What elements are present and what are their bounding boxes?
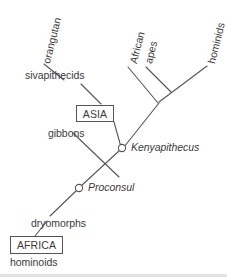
branch-sivapithecids-to-asia (81, 84, 101, 104)
node-marker-kenyapithecus (118, 144, 125, 151)
branch-african-apes (128, 67, 158, 103)
branch-apes (146, 67, 171, 92)
branch-asia-to-kenyapithecus (114, 122, 121, 147)
region-box-asia: ASIA (76, 105, 114, 122)
node-marker-proconsul (75, 184, 82, 191)
branch-label-hominoids: hominoids (10, 257, 57, 268)
branch-label-dryomorphs: dryomorphs (31, 218, 86, 229)
region-box-africa: AFRICA (10, 236, 63, 254)
node-label-proconsul: Proconsul (88, 182, 134, 193)
branch-gibbons (73, 133, 119, 177)
branch-hominids (159, 66, 207, 102)
branch-label-gibbons: gibbons (48, 128, 84, 139)
node-label-kenyapithecus: Kenyapithecus (131, 142, 199, 153)
branch-label-sivapithecids: sivapithecids (25, 70, 84, 81)
branch-proconsul-to-dryomorphs (50, 190, 77, 216)
